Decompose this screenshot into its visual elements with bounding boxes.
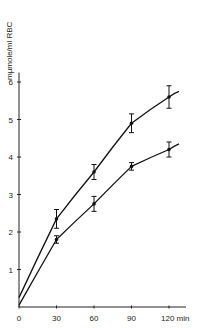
y-tick-label: 1 xyxy=(9,266,14,275)
data-point xyxy=(167,95,171,99)
data-points xyxy=(54,86,172,244)
fit-curve xyxy=(19,144,179,305)
data-point xyxy=(167,148,171,152)
x-tick-label: 90 xyxy=(127,314,136,323)
y-axis-title: mµmole/ml RBC xyxy=(5,21,14,80)
data-point xyxy=(130,165,134,169)
axes: 0306090120 min123456 xyxy=(9,73,190,323)
data-point xyxy=(55,238,59,242)
y-tick-label: 5 xyxy=(9,116,14,125)
x-tick-label: 120 min xyxy=(161,314,189,323)
x-tick-label: 60 xyxy=(90,314,99,323)
y-tick-label: 2 xyxy=(9,228,14,237)
data-point xyxy=(92,202,96,206)
data-point xyxy=(92,170,96,174)
y-tick-label: 3 xyxy=(9,191,14,200)
x-tick-label: 0 xyxy=(17,314,22,323)
fit-curve xyxy=(19,91,179,297)
chart: 0306090120 min123456 mµmole/ml RBC xyxy=(0,0,200,328)
y-tick-label: 4 xyxy=(9,153,14,162)
data-point xyxy=(130,121,134,125)
x-tick-label: 30 xyxy=(52,314,61,323)
fitted-curves xyxy=(19,91,179,305)
data-point xyxy=(55,217,59,221)
